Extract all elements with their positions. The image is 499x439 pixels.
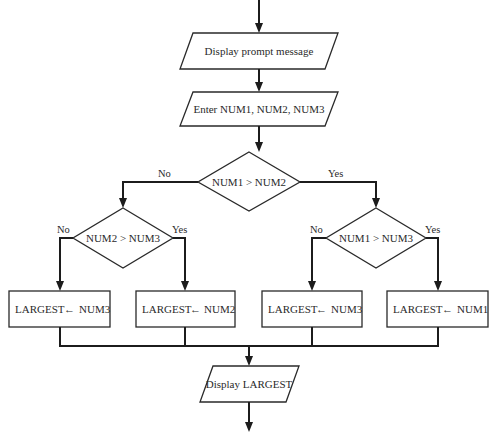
connector-main-yes: Yes — [300, 168, 380, 208]
assign-1-target: LARGEST — [15, 303, 65, 315]
entry-connector — [255, 0, 263, 33]
assign-arrow-icon: ← — [190, 303, 201, 315]
arrowhead-icon — [255, 142, 263, 152]
assign-3-source: NUM3 — [331, 303, 363, 315]
input-node-label: Enter NUM1, NUM2, NUM3 — [193, 103, 325, 115]
decision-main-label: NUM1 > NUM2 — [212, 176, 286, 188]
arrowhead-icon — [434, 281, 442, 291]
merge-connector — [59, 327, 439, 366]
main-no-label: No — [158, 168, 171, 179]
assign-arrow-icon: ← — [64, 303, 75, 315]
assign-1-source: NUM3 — [79, 303, 111, 315]
exit-connector — [245, 402, 253, 432]
arrowhead-icon — [56, 281, 64, 291]
left-yes-label: Yes — [172, 224, 187, 235]
assign-arrow-icon: ← — [442, 303, 453, 315]
connector-left-no: No — [56, 224, 73, 291]
arrowhead-icon — [245, 356, 253, 366]
output-io-node: Display LARGEST — [200, 366, 299, 402]
connector-input-to-decision — [255, 126, 263, 152]
decision-left-node: NUM2 > NUM3 — [73, 208, 173, 268]
assign-node-1: LARGEST ← NUM3 — [9, 291, 111, 327]
prompt-node-label: Display prompt message — [205, 45, 314, 57]
connector-left-yes: Yes — [172, 224, 189, 291]
assign-node-4: LARGEST ← NUM1 — [387, 291, 488, 327]
decision-right-node: NUM1 > NUM3 — [326, 208, 426, 268]
left-no-label: No — [57, 224, 70, 235]
output-node-label: Display LARGEST — [206, 378, 293, 390]
prompt-io-node: Display prompt message — [180, 33, 338, 69]
right-no-label: No — [310, 224, 323, 235]
main-yes-label: Yes — [328, 168, 343, 179]
connector-right-yes: Yes — [425, 224, 442, 291]
arrowhead-icon — [255, 82, 263, 92]
arrowhead-icon — [308, 281, 316, 291]
connector-right-no: No — [308, 224, 326, 291]
arrowhead-icon — [245, 422, 253, 432]
assign-node-3: LARGEST ← NUM3 — [262, 291, 363, 327]
arrowhead-icon — [119, 198, 127, 208]
assign-4-source: NUM1 — [457, 303, 488, 315]
decision-main-node: NUM1 > NUM2 — [198, 152, 300, 211]
decision-right-label: NUM1 > NUM3 — [339, 232, 414, 244]
input-io-node: Enter NUM1, NUM2, NUM3 — [180, 92, 338, 126]
arrowhead-icon — [255, 23, 263, 33]
arrowhead-icon — [372, 198, 380, 208]
connector-main-no: No — [119, 168, 198, 208]
assign-2-source: NUM2 — [204, 303, 235, 315]
decision-left-label: NUM2 > NUM3 — [86, 232, 161, 244]
assign-arrow-icon: ← — [316, 303, 327, 315]
assign-2-target: LARGEST — [142, 303, 192, 315]
assign-4-target: LARGEST — [393, 303, 443, 315]
arrowhead-icon — [181, 281, 189, 291]
flowchart: Display prompt message Enter NUM1, NUM2,… — [0, 0, 499, 439]
assign-node-2: LARGEST ← NUM2 — [136, 291, 235, 327]
connector-prompt-to-input — [255, 69, 263, 92]
right-yes-label: Yes — [425, 224, 440, 235]
assign-3-target: LARGEST — [268, 303, 318, 315]
